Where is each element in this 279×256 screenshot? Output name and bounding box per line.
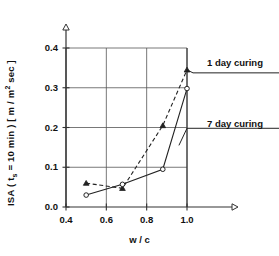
x-tick-label: 0.8: [130, 214, 164, 225]
y-tick-label: 0.3: [24, 82, 58, 93]
isa-vs-wc-chart: ISA ( ts = 10 min ) [ m / m2 sec ] w / c…: [0, 0, 279, 256]
marker-circle: [185, 86, 190, 91]
y-axis-arrow: [63, 24, 69, 30]
marker-circle: [120, 182, 125, 187]
marker-circle: [161, 167, 166, 172]
y-tick-label: 0.2: [24, 122, 58, 133]
x-axis-arrow: [232, 204, 238, 210]
annotation-label-7-day-curing: 7 day curing: [207, 118, 263, 129]
leader-line-1-day: [187, 70, 279, 73]
annotation-leaders: [179, 70, 279, 146]
x-tick-label: 0.6: [89, 214, 123, 225]
x-axis-label: w / c: [0, 234, 279, 245]
leader-line-7-day: [179, 128, 279, 145]
annotation-label-1-day-curing: 1 day curing: [207, 57, 263, 68]
y-tick-label: 0.4: [24, 42, 58, 53]
marker-triangle: [160, 123, 166, 128]
marker-circle: [84, 193, 89, 198]
x-tick-label: 1.0: [170, 214, 204, 225]
data-series: [83, 67, 190, 197]
x-tick-label: 0.4: [49, 214, 83, 225]
y-tick-label: 0.0: [24, 201, 58, 212]
y-tick-label: 0.1: [24, 161, 58, 172]
